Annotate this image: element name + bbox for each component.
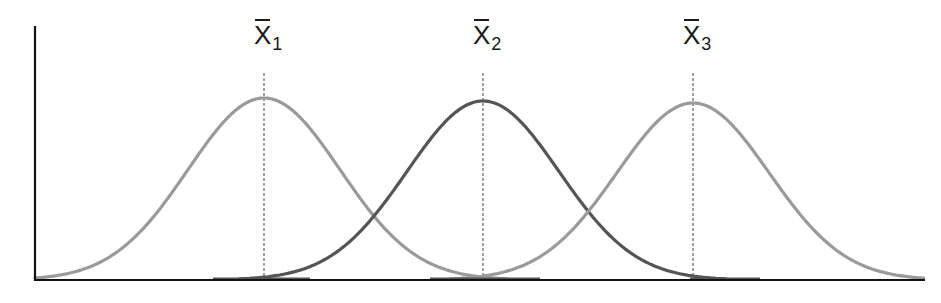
mean-label-3: X3 bbox=[683, 22, 711, 53]
xbar-symbol: X bbox=[254, 22, 271, 48]
subscript: 2 bbox=[491, 34, 501, 54]
curve-3 bbox=[450, 103, 924, 279]
xbar-symbol: X bbox=[473, 22, 490, 48]
normal-distributions-chart bbox=[0, 0, 941, 303]
curve-1 bbox=[35, 98, 507, 279]
distribution-curves bbox=[35, 98, 924, 279]
mean-label-1: X1 bbox=[254, 22, 282, 53]
axes bbox=[34, 26, 925, 281]
subscript: 3 bbox=[701, 34, 711, 54]
subscript: 1 bbox=[272, 34, 282, 54]
xbar-symbol: X bbox=[683, 22, 700, 48]
mean-label-2: X2 bbox=[473, 22, 501, 53]
mean-lines bbox=[264, 73, 693, 280]
